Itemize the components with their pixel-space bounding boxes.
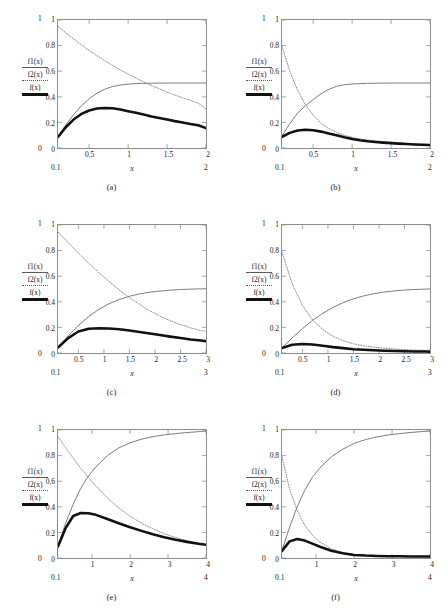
- outer-y-bottom-label: 0: [38, 555, 42, 563]
- series-line-f1: [282, 431, 430, 550]
- plot-area: 00.20.40.60.811234: [281, 429, 431, 559]
- legend-label-f: f(x): [16, 289, 54, 297]
- legend-swatch-f2-line: [22, 80, 48, 81]
- legend-swatch-f-line: [22, 298, 48, 301]
- plot-area: 00.20.40.60.811234: [57, 429, 207, 559]
- chart-panel-d: f1(x) f2(x) f(x) 100.13x 00.20.40.60.810…: [224, 205, 447, 410]
- plot-area: 00.20.40.60.810.511.52: [281, 19, 431, 149]
- y-tick-label: 0.2: [46, 325, 55, 333]
- x-tick-label: 0.5: [74, 356, 83, 364]
- plot-area: 00.20.40.60.810.511.522.53: [57, 224, 207, 354]
- outer-x-left-label: 0.1: [275, 369, 284, 377]
- outer-y-bottom-label: 0: [38, 350, 42, 358]
- legend-label-f1: f1(x): [16, 58, 54, 66]
- series-line-f2: [282, 252, 430, 351]
- outer-x-right-label: 4: [204, 574, 208, 582]
- x-tick-label: 1.5: [164, 151, 173, 159]
- y-tick-label: 0.8: [46, 452, 55, 460]
- legend-swatch-f1-line: [22, 67, 48, 68]
- x-tick-label: 3: [392, 561, 396, 569]
- chart-legend: f1(x) f2(x) f(x): [240, 263, 278, 303]
- outer-y-top-label: 1: [38, 15, 42, 23]
- y-tick-label: 0.2: [270, 530, 279, 538]
- legend-swatch-f-line: [246, 298, 272, 301]
- chart-legend: f1(x) f2(x) f(x): [16, 468, 54, 508]
- y-tick-label: 1: [51, 426, 55, 434]
- legend-label-f1: f1(x): [16, 468, 54, 476]
- panel-inner: f1(x) f2(x) f(x) 100.14x 00.20.40.60.811…: [0, 410, 223, 615]
- legend-swatch-f-line: [246, 503, 272, 506]
- x-tick-label: 2.5: [177, 356, 186, 364]
- legend-label-f: f(x): [240, 84, 278, 92]
- y-tick-label: 1: [275, 426, 279, 434]
- y-tick-label: 0.6: [270, 273, 279, 281]
- y-tick-label: 0: [275, 146, 279, 154]
- y-tick-label: 0: [51, 351, 55, 359]
- legend-swatch-f1-line: [22, 477, 48, 478]
- legend-label-f: f(x): [16, 84, 54, 92]
- chart-panel-c: f1(x) f2(x) f(x) 100.13x 00.20.40.60.810…: [0, 205, 223, 410]
- y-tick-label: 0: [275, 351, 279, 359]
- panel-inner: f1(x) f2(x) f(x) 100.13x 00.20.40.60.810…: [224, 205, 447, 410]
- chart-panel-a: f1(x) f2(x) f(x) 100.12x 00.20.40.60.810…: [0, 0, 223, 205]
- x-tick-label: 0.5: [298, 356, 307, 364]
- plot-area: 00.20.40.60.810.511.522.53: [281, 224, 431, 354]
- series-line-f1: [282, 83, 430, 136]
- legend-label-f1: f1(x): [16, 263, 54, 271]
- outer-y-top-label: 1: [262, 425, 266, 433]
- legend-label-f: f(x): [16, 494, 54, 502]
- legend-swatch-f1-line: [246, 477, 272, 478]
- series-line-f2: [58, 232, 206, 331]
- legend-swatch-f-line: [22, 93, 48, 96]
- x-tick-label: 3: [168, 561, 172, 569]
- outer-x-right-label: 3: [204, 369, 208, 377]
- x-tick-label: 1: [315, 561, 319, 569]
- series-line-f: [58, 328, 206, 347]
- panel-caption: (f): [224, 592, 447, 602]
- y-tick-label: 0.4: [46, 94, 55, 102]
- y-tick-label: 0.8: [46, 247, 55, 255]
- y-tick-label: 0.6: [46, 478, 55, 486]
- panel-inner: f1(x) f2(x) f(x) 100.13x 00.20.40.60.810…: [0, 205, 223, 410]
- legend-swatch-f2-line: [246, 285, 272, 286]
- series-line-f1: [58, 83, 206, 137]
- outer-x-right-label: 2: [428, 164, 432, 172]
- y-tick-label: 0.8: [46, 42, 55, 50]
- y-tick-label: 0: [51, 146, 55, 154]
- y-tick-label: 0.4: [270, 94, 279, 102]
- x-axis-label: x: [354, 165, 358, 173]
- x-tick-label: 1: [127, 151, 131, 159]
- series-line-f: [282, 539, 430, 557]
- x-tick-label: 1.5: [126, 356, 135, 364]
- legend-swatch-f2-line: [246, 80, 272, 81]
- legend-swatch-f-line: [246, 93, 272, 96]
- outer-x-left-label: 0.1: [51, 574, 60, 582]
- legend-swatch-f2-line: [22, 285, 48, 286]
- y-tick-label: 0.4: [270, 299, 279, 307]
- outer-y-top-label: 1: [38, 220, 42, 228]
- x-axis-label: x: [354, 575, 358, 583]
- y-tick-label: 1: [275, 221, 279, 229]
- x-tick-label: 2: [129, 561, 133, 569]
- chart-legend: f1(x) f2(x) f(x): [240, 58, 278, 98]
- legend-swatch-f1-line: [22, 272, 48, 273]
- y-tick-label: 0.2: [270, 325, 279, 333]
- outer-x-right-label: 2: [204, 164, 208, 172]
- outer-y-bottom-label: 0: [38, 145, 42, 153]
- x-tick-label: 1.5: [350, 356, 359, 364]
- plot-area: 00.20.40.60.810.511.52: [57, 19, 207, 149]
- y-tick-label: 0.8: [270, 452, 279, 460]
- chart-legend: f1(x) f2(x) f(x): [16, 58, 54, 98]
- y-tick-label: 0.6: [270, 478, 279, 486]
- legend-swatch-f1-line: [246, 272, 272, 273]
- series-line-f1: [282, 289, 430, 348]
- chart-legend: f1(x) f2(x) f(x): [240, 468, 278, 508]
- x-tick-label: 1: [327, 356, 331, 364]
- panel-caption: (d): [224, 387, 447, 397]
- x-tick-label: 1: [91, 561, 95, 569]
- panel-caption: (a): [0, 182, 223, 192]
- chart-panel-b: f1(x) f2(x) f(x) 100.12x 00.20.40.60.810…: [224, 0, 447, 205]
- panel-caption: (b): [224, 182, 447, 192]
- chart-legend: f1(x) f2(x) f(x): [16, 263, 54, 303]
- y-tick-label: 0.6: [46, 273, 55, 281]
